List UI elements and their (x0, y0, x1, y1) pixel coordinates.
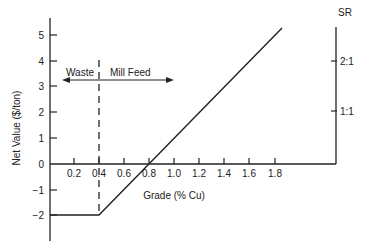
y-ticks (50, 35, 57, 215)
svg-text:0: 0 (38, 159, 44, 170)
svg-text:4: 4 (38, 56, 44, 67)
svg-text:1.0: 1.0 (167, 168, 181, 179)
x-ticks (74, 158, 275, 164)
svg-text:3: 3 (38, 81, 44, 92)
svg-text:1.8: 1.8 (268, 168, 282, 179)
net-value-line (50, 28, 282, 215)
mill-feed-label: Mill Feed (110, 67, 151, 78)
svg-text:2: 2 (38, 107, 44, 118)
svg-text:1.6: 1.6 (242, 168, 256, 179)
sr-tick-2-1: 2:1 (340, 56, 354, 67)
svg-text:5: 5 (38, 30, 44, 41)
svg-text:−2: −2 (33, 210, 45, 221)
svg-text:1: 1 (38, 133, 44, 144)
y-axis-label: Net Value ($/ton) (11, 91, 22, 166)
arrow-right-icon (166, 77, 174, 83)
svg-text:0.6: 0.6 (117, 168, 131, 179)
waste-label: Waste (66, 67, 94, 78)
sr-tick-1-1: 1:1 (340, 106, 354, 117)
svg-text:1.4: 1.4 (217, 168, 231, 179)
y-tick-labels: 5 4 3 2 1 0 −1 −2 (33, 30, 45, 221)
sr-axis-label: SR (338, 7, 352, 18)
svg-text:0.2: 0.2 (67, 168, 81, 179)
chart: 5 4 3 2 1 0 −1 −2 0.2 0.4 0.6 0.8 1.0 1.… (0, 0, 368, 251)
x-axis-label: Grade (% Cu) (143, 190, 205, 201)
svg-text:1.2: 1.2 (192, 168, 206, 179)
svg-text:−1: −1 (33, 185, 45, 196)
